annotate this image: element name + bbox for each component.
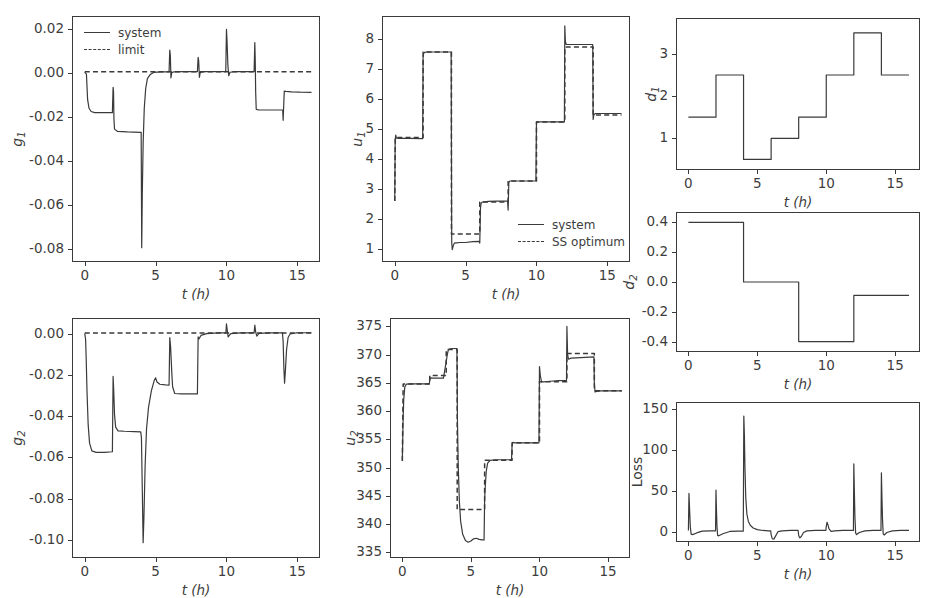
legend-label-g1-0: system (118, 27, 161, 39)
yaxis-title-g1: g1 (9, 131, 27, 146)
ytick-u1-0 (378, 249, 382, 250)
xtick-g1-3 (297, 262, 298, 266)
ytick-g1-3 (68, 161, 72, 162)
axes-frame-d2 (676, 212, 920, 352)
xtick-d2-3 (895, 352, 896, 356)
ytick-label-d2-1: 0.2 (647, 245, 668, 259)
ytick-d2-0 (672, 222, 676, 223)
ytick-label-u1-3: 4 (365, 152, 374, 166)
xtick-label-loss-0: 0 (684, 549, 693, 563)
xtick-loss-2 (826, 542, 827, 546)
ytick-u1-5 (378, 99, 382, 100)
ytick-label-d2-0: 0.4 (647, 216, 668, 230)
xtick-d1-0 (688, 170, 689, 174)
xaxis-title-g2: t (h) (182, 582, 211, 598)
yaxis-title-u1: u1 (349, 131, 367, 146)
ytick-g1-4 (68, 205, 72, 206)
ytick-loss-2 (672, 450, 676, 451)
ytick-label-g2-5: -0.10 (29, 533, 64, 547)
ytick-u2-5 (386, 411, 390, 412)
xtick-label-u1-3: 15 (599, 269, 616, 283)
xtick-loss-3 (895, 542, 896, 546)
xtick-u2-2 (539, 558, 540, 562)
ytick-label-loss-0: 0 (659, 525, 668, 539)
ytick-g1-0 (68, 29, 72, 30)
ytick-label-u1-4: 5 (365, 122, 374, 136)
ytick-u2-4 (386, 439, 390, 440)
xtick-label-d1-3: 15 (887, 177, 904, 191)
ytick-label-u2-5: 360 (356, 404, 382, 418)
ytick-label-u2-1: 340 (356, 517, 382, 531)
xtick-label-g1-1: 5 (151, 269, 160, 283)
xtick-g2-0 (85, 558, 86, 562)
ytick-label-u1-5: 6 (365, 92, 374, 106)
xtick-g2-3 (297, 558, 298, 562)
xtick-label-g2-2: 10 (218, 565, 235, 579)
xtick-label-g1-0: 0 (80, 269, 89, 283)
ytick-u2-8 (386, 326, 390, 327)
xtick-label-loss-2: 10 (818, 549, 835, 563)
xtick-label-loss-3: 15 (887, 549, 904, 563)
xtick-label-u2-2: 10 (531, 565, 548, 579)
ytick-label-g1-2: -0.02 (29, 110, 64, 124)
xtick-u1-1 (466, 262, 467, 266)
xtick-u1-3 (607, 262, 608, 266)
ytick-d2-2 (672, 282, 676, 283)
xtick-g2-2 (226, 558, 227, 562)
xtick-label-u2-1: 5 (467, 565, 476, 579)
ytick-g2-5 (68, 540, 72, 541)
xtick-g2-1 (156, 558, 157, 562)
yaxis-title-d2: d2 (621, 274, 639, 289)
xtick-d2-0 (688, 352, 689, 356)
xtick-label-g1-3: 15 (289, 269, 306, 283)
xaxis-title-g1: t (h) (182, 286, 211, 302)
yaxis-title-g2: g2 (9, 430, 27, 445)
ytick-label-u2-4: 355 (356, 433, 382, 447)
axes-frame-u2 (390, 318, 630, 558)
ytick-label-g1-4: -0.06 (29, 198, 64, 212)
legend-entry-g1-1: limit (84, 41, 161, 58)
legend-key-solid (518, 224, 544, 225)
xtick-label-d1-2: 10 (818, 177, 835, 191)
series-u1-1 (395, 47, 622, 234)
ytick-label-loss-2: 100 (642, 443, 668, 457)
ytick-label-g2-3: -0.06 (29, 451, 64, 465)
xtick-label-d1-1: 5 (753, 177, 762, 191)
ytick-d1-1 (672, 96, 676, 97)
ytick-label-u1-1: 2 (365, 212, 374, 226)
yaxis-title-d1: d1 (643, 86, 661, 101)
xtick-u1-0 (395, 262, 396, 266)
legend-entry-g1-0: system (84, 24, 161, 41)
ytick-label-loss-3: 150 (642, 402, 668, 416)
xtick-d2-1 (757, 352, 758, 356)
xaxis-title-d1: t (h) (784, 194, 813, 210)
ytick-g2-2 (68, 416, 72, 417)
xtick-label-d2-3: 15 (887, 359, 904, 373)
axes-frame-d1 (676, 18, 920, 170)
axes-frame-loss (676, 402, 920, 542)
ytick-loss-3 (672, 409, 676, 410)
xtick-d1-1 (757, 170, 758, 174)
xaxis-title-u1: t (h) (492, 286, 521, 302)
legend-label-u1-1: SS optimum (552, 236, 625, 248)
legend-entry-u1-0: system (518, 216, 625, 233)
yaxis-title-u2: u2 (342, 430, 360, 445)
xtick-label-d2-2: 10 (818, 359, 835, 373)
ytick-label-g1-3: -0.04 (29, 154, 64, 168)
ytick-label-g1-5: -0.08 (29, 242, 64, 256)
series-u2-1 (402, 350, 621, 510)
xtick-label-loss-1: 5 (753, 549, 762, 563)
xtick-label-g2-3: 15 (289, 565, 306, 579)
ytick-d2-1 (672, 252, 676, 253)
ytick-label-g2-2: -0.04 (29, 410, 64, 424)
ytick-label-u2-0: 335 (356, 546, 382, 560)
xtick-d1-3 (895, 170, 896, 174)
